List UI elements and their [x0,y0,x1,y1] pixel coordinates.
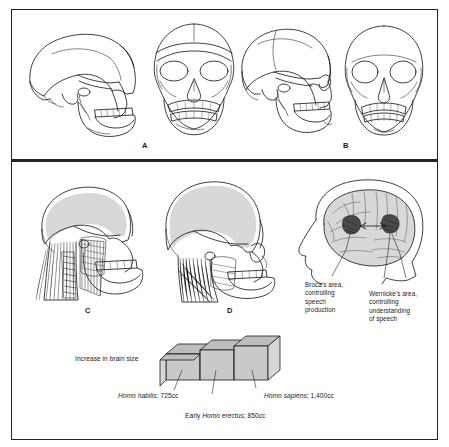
wernicke-line-1: Wernicke's area, [369,290,417,297]
figure-plate: A [0,0,449,447]
skull-a-lateral [22,20,147,142]
broca-line-1: Broca's area, [305,281,343,288]
species-name-sapiens: Homo sapiens [264,392,307,399]
species-name-habilis: Homo habilis [118,392,157,399]
wernicke-line-2: controlling [369,298,399,305]
chart-title: Increase in brain size [75,355,138,362]
broca-area-label: Broca's area, controlling speech product… [305,281,363,314]
panel-letter-b: B [343,141,349,150]
skull-c-muscles [24,178,146,302]
skull-b-frontal [338,22,430,142]
brain-size-chart [160,336,280,396]
wernicke-area-label: Wernicke's area, controlling understandi… [369,290,435,323]
skull-b-lateral [228,22,340,142]
wernicke-line-3: understanding [369,307,410,314]
broca-line-2: controlling [305,289,335,296]
species-prefix-erectus: Early [185,412,202,419]
broca-line-3: speech [305,298,326,305]
panel-letter-d: D [227,306,233,315]
panel-letter-c: C [85,306,91,315]
species-capacity-habilis: ; 725cc [157,392,179,399]
wernicke-line-4: of speech [369,315,397,322]
species-capacity-sapiens: ; 1,400cc [307,392,334,399]
species-label-erectus: Early Homo erectus; 850cc [185,412,265,419]
panel-letter-a: A [142,141,148,150]
broca-line-4: production [305,306,335,313]
species-capacity-erectus: ; 850cc [244,412,266,419]
species-label-habilis: Homo habilis; 725cc [118,392,178,399]
species-label-sapiens: Homo sapiens; 1,400cc [264,392,334,399]
skull-d-muscles [152,176,280,302]
brain-language-diagram [288,174,438,284]
species-name-erectus: Homo erectus [202,412,244,419]
